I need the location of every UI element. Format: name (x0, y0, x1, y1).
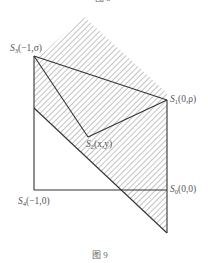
label-s1-coords: (0,ρ) (178, 94, 196, 104)
diagram-figure (0, 0, 208, 263)
figure-caption: 图 9 (92, 251, 108, 260)
label-s4: S4(−1,0) (18, 197, 50, 208)
label-s2: S2(x,y) (86, 140, 112, 151)
label-s4-coords: (−1,0) (26, 196, 50, 206)
label-s1: S1(0,ρ) (170, 95, 196, 106)
label-s3-coords: (−1,σ) (18, 43, 42, 53)
label-s3: S3(−1,σ) (10, 44, 42, 55)
label-s2-coords: (x,y) (94, 139, 112, 149)
label-s0: S0(0,0) (170, 185, 196, 196)
label-s0-coords: (0,0) (178, 184, 196, 194)
top-caption-partial: 图 8 (95, 0, 111, 3)
